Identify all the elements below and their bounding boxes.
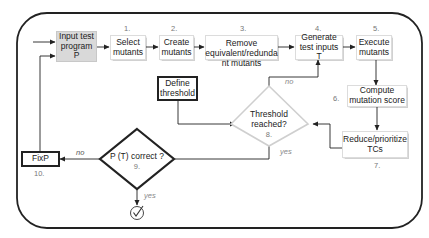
node-select-mutants: Selectmutants [110,35,146,60]
node-remove-line1: Remove [226,38,258,48]
step-number-2: 2. [171,24,177,33]
threshold-line2: reached? [251,119,286,129]
node-compute-line1: Compute [360,85,395,95]
step-number-9: 9. [134,162,140,171]
node-define-threshold: Definethreshold [157,76,198,101]
node-define-line1: Define [165,78,190,88]
node-remove-line2: equivalent/redunda [205,48,277,58]
step-number-3: 3. [240,24,246,33]
node-remove-mutants: Removeequivalent/redundant mutants [205,35,278,60]
node-execute-line2: mutants [359,47,389,57]
edge-label-threshold-no: no [285,77,293,86]
node-execute-mutants: Executemutants [356,35,392,60]
node-create-line1: Create [164,37,190,47]
node-reduce-tcs: Reduce/prioritizeTCs [342,131,408,158]
step-number-10: 10. [34,169,44,178]
node-create-mutants: Createmutants [159,35,194,60]
step-number-1: 1. [124,24,130,33]
node-generate-line1: Generate [301,32,336,42]
node-fix-label: FixP [32,154,49,164]
check-circle-icon [131,206,144,220]
node-compute-line2: mutation score [349,95,405,105]
step-number-8: 8. [266,130,272,139]
node-correct-decision: P (T) correct ?9. [102,151,172,171]
step-number-5: 5. [373,24,379,33]
node-select-line2: mutants [113,47,143,57]
node-input-line1: Input test [59,31,94,41]
node-generate-inputs: Generatetest inputs T [295,35,343,60]
node-define-line2: threshold [160,88,195,98]
node-select-line1: Select [116,37,140,47]
threshold-line1: Threshold [250,109,288,119]
edge-label-threshold-yes: yes [280,147,292,156]
node-reduce-line1: Reduce/prioritize [343,134,407,144]
step-number-6: 6. [333,94,339,103]
edge-label-correct-no: no [76,148,84,157]
node-execute-line1: Execute [359,37,390,47]
node-reduce-line2: TCs [367,144,383,154]
node-input-program: Input testprogram P [56,31,97,62]
node-input-line2: program P [61,41,93,61]
node-generate-line2: test inputs T [300,42,339,62]
node-fix-p: FixP [21,151,60,167]
mutation-testing-flowchart: Input testprogram P 1. Selectmutants 2. … [0,0,429,238]
node-threshold-decision: Thresholdreached?8. [240,109,298,140]
correct-line1: P (T) correct ? [110,151,164,161]
edge-label-correct-yes: yes [144,191,156,200]
node-remove-line3: nt mutants [222,58,262,68]
node-create-line2: mutants [161,47,191,57]
node-compute-score: Computemutation score [347,85,407,107]
step-number-7: 7. [374,161,380,170]
